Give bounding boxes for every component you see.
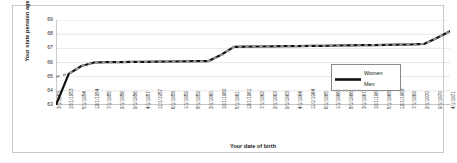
legend-label-men: Men bbox=[364, 81, 375, 87]
x-tick-label: 10/1/1967 bbox=[375, 89, 380, 109]
x-tick-label: 11/1/1964 bbox=[312, 89, 317, 109]
x-axis-tick-labels: 3/1/195310/1/19535/1/195412/1/19547/1/19… bbox=[56, 107, 450, 143]
x-tick-label: 10/1/1960 bbox=[223, 89, 228, 109]
x-tick-label: 4/1/1957 bbox=[147, 91, 152, 109]
x-tick-label: 2/1/1970 bbox=[426, 91, 431, 109]
y-axis-tick-labels: 63646566676869 bbox=[33, 20, 53, 105]
x-tick-label: 3/1/1960 bbox=[210, 91, 215, 109]
x-tick-label: 5/1/1968 bbox=[388, 91, 393, 109]
y-tick-label: 64 bbox=[47, 88, 53, 93]
x-tick-label: 8/1/1959 bbox=[197, 91, 202, 109]
x-tick-label: 12/1/1961 bbox=[248, 89, 253, 109]
x-tick-label: 7/1/1962 bbox=[261, 91, 266, 109]
legend-label-women: Women bbox=[364, 70, 382, 76]
x-tick-label: 11/1/1957 bbox=[159, 89, 164, 109]
x-tick-label: 1/1/1959 bbox=[185, 91, 190, 109]
y-tick-label: 69 bbox=[47, 17, 53, 22]
legend-swatch-women-icon bbox=[335, 69, 361, 76]
x-tick-label: 5/1/1954 bbox=[83, 91, 88, 109]
y-tick-label: 68 bbox=[47, 31, 53, 36]
x-tick-label: 5/1/1961 bbox=[236, 91, 241, 109]
y-tick-label: 65 bbox=[47, 74, 53, 79]
y-tick-label: 67 bbox=[47, 45, 53, 50]
x-tick-label: 9/1/1963 bbox=[286, 91, 291, 109]
legend-swatch-men-icon bbox=[335, 80, 361, 87]
x-tick-label: 9/1/1956 bbox=[134, 91, 139, 109]
x-tick-label: 4/1/1964 bbox=[299, 91, 304, 109]
x-tick-label: 2/1/1956 bbox=[121, 91, 126, 109]
x-tick-label: 7/1/1955 bbox=[108, 91, 113, 109]
x-tick-label: 12/1/1968 bbox=[401, 89, 406, 109]
x-tick-label: 6/1/1958 bbox=[172, 91, 177, 109]
y-tick-label: 66 bbox=[47, 60, 53, 65]
chart-legend[interactable]: Women Men bbox=[331, 64, 401, 91]
x-tick-label: 4/1/1971 bbox=[452, 91, 457, 109]
x-tick-label: 2/1/1963 bbox=[274, 91, 279, 109]
legend-item-men[interactable]: Men bbox=[335, 78, 375, 89]
chart-figure: Your state pension age 63646566676869 3/… bbox=[0, 0, 457, 163]
legend-item-women[interactable]: Women bbox=[335, 67, 382, 78]
chart-frame: Your state pension age 63646566676869 3/… bbox=[12, 5, 444, 153]
x-axis-title: Your date of birth bbox=[56, 143, 450, 149]
x-tick-label: 7/1/1969 bbox=[413, 91, 418, 109]
x-tick-label: 12/1/1954 bbox=[96, 89, 101, 109]
x-tick-label: 3/1/1967 bbox=[363, 91, 368, 109]
y-tick-label: 63 bbox=[47, 102, 53, 107]
y-axis-title: Your state pension age bbox=[24, 0, 30, 86]
x-tick-label: 10/1/1953 bbox=[70, 89, 75, 109]
x-tick-label: 9/1/1970 bbox=[439, 91, 444, 109]
x-tick-label: 3/1/1953 bbox=[58, 91, 63, 109]
x-tick-label: 6/1/1965 bbox=[325, 91, 330, 109]
